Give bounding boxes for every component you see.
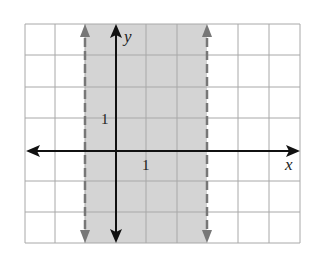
x-axis-label: x	[284, 155, 293, 174]
y-axis-label: y	[122, 27, 132, 46]
x-tick-label: 1	[142, 157, 150, 173]
y-tick-label: 1	[101, 111, 109, 127]
coordinate-plane: y x 1 1	[0, 0, 313, 257]
